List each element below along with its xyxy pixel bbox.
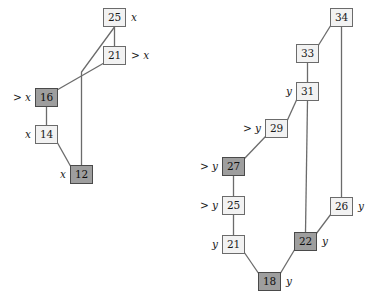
node-value: 31 — [301, 86, 314, 97]
tree-edge — [244, 252, 259, 274]
tree-edge — [306, 101, 308, 232]
node-annotation-26: y — [358, 201, 364, 212]
node-value: 34 — [335, 12, 348, 23]
node-value: 18 — [263, 276, 276, 287]
tree-edge — [318, 25, 331, 46]
node-annotation-27: > y — [200, 161, 218, 172]
tree-edge — [57, 63, 104, 90]
tree-node-25[interactable]: 25 — [222, 196, 245, 215]
tree-node-34[interactable]: 34 — [330, 8, 353, 27]
node-annotation-25: > y — [200, 200, 218, 211]
tree-node-27[interactable]: 27 — [222, 157, 245, 176]
tree-edge — [244, 136, 266, 159]
tree-edge — [316, 214, 331, 234]
tree-node-25[interactable]: 25 — [103, 8, 126, 27]
tree-node-16[interactable]: 16 — [35, 88, 58, 107]
node-annotation-18: y — [286, 276, 292, 287]
tree-node-26[interactable]: 26 — [330, 197, 353, 216]
node-value: 21 — [227, 239, 240, 250]
node-value: 33 — [301, 48, 314, 59]
node-value: 12 — [75, 169, 88, 180]
node-value: 29 — [270, 123, 283, 134]
tree-edge — [280, 249, 295, 274]
tree-node-22[interactable]: 22 — [294, 232, 317, 251]
node-annotation-31: y — [286, 86, 292, 97]
node-annotation-12: x — [60, 169, 66, 180]
tree-node-12[interactable]: 12 — [70, 165, 93, 184]
node-annotation-14: x — [25, 129, 31, 140]
tree-node-21[interactable]: 21 — [222, 235, 245, 254]
tree-node-31[interactable]: 31 — [296, 82, 319, 101]
tree-node-33[interactable]: 33 — [296, 44, 319, 63]
tree-edge — [287, 99, 297, 121]
node-value: 27 — [227, 161, 240, 172]
node-value: 14 — [40, 129, 53, 140]
node-annotation-21: > x — [131, 50, 149, 61]
node-value: 16 — [40, 92, 53, 103]
tree-node-14[interactable]: 14 — [35, 125, 58, 144]
node-value: 22 — [299, 236, 312, 247]
node-value: 25 — [227, 200, 240, 211]
tree-node-21[interactable]: 21 — [103, 46, 126, 65]
node-annotation-16: > x — [13, 92, 31, 103]
tree-node-29[interactable]: 29 — [265, 119, 288, 138]
diagram-canvas: 252116141234333129272526212218 x> x> xxx… — [0, 0, 370, 298]
node-value: 21 — [108, 50, 121, 61]
node-value: 25 — [108, 12, 121, 23]
tree-node-18[interactable]: 18 — [258, 272, 281, 291]
tree-edge — [57, 142, 71, 167]
node-annotation-21: y — [212, 239, 218, 250]
node-annotation-29: > y — [243, 123, 261, 134]
node-annotation-22: y — [322, 236, 328, 247]
node-annotation-25: x — [131, 12, 137, 23]
node-value: 26 — [335, 201, 348, 212]
